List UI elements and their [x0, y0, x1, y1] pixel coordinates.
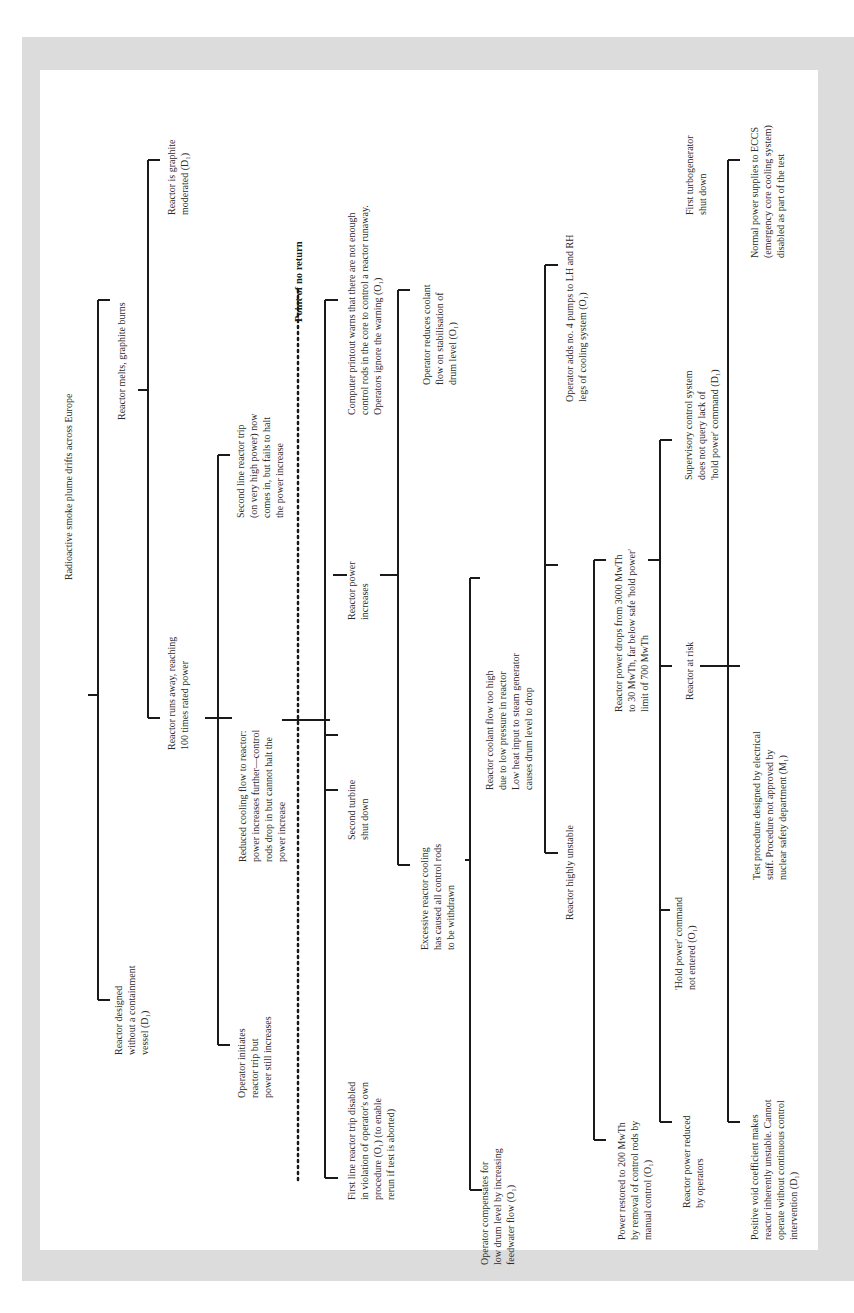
node-second-line-trip: Second line reactor trip (on very high p… — [234, 414, 286, 518]
node-first-turbogenerator: First turbogenerator shut down — [683, 135, 709, 215]
node-reactor-highly-unstable: Reactor highly unstable — [563, 825, 576, 920]
fault-tree-connectors — [0, 0, 854, 1313]
node-first-line-trip-disabled: First line reactor trip disabled in viol… — [345, 1082, 397, 1200]
node-reduced-cooling-flow: Reduced cooling flow to reactor: power i… — [236, 730, 288, 862]
top-event: Radioactive smoke plume drifts across Eu… — [62, 394, 75, 580]
point-of-no-return-label: Point of no return — [292, 241, 305, 322]
node-reactor-at-risk: Reactor at risk — [683, 642, 696, 700]
node-operator-initiates-trip: Operator initiates reactor trip but powe… — [235, 1016, 274, 1098]
node-reactor-power-increases: Reactor power increases — [345, 561, 371, 620]
node-reactor-melts: Reactor melts, graphite burns — [115, 302, 128, 420]
node-operator-adds-pumps: Operator adds no. 4 pumps to LH and RH l… — [563, 235, 589, 402]
node-second-turbine-shutdown: Second turbine shut down — [345, 780, 371, 840]
node-supervisory-control: Supervisory control system does not quer… — [682, 369, 721, 480]
node-excessive-cooling: Excessive reactor cooling has caused all… — [418, 844, 457, 950]
node-eccs-disabled: Normal power supplies to ECCS (emergency… — [748, 125, 787, 258]
node-operator-compensates: Operator compensates for low drum level … — [478, 1148, 517, 1265]
node-power-drops: Reactor power drops from 3000 MwTh to 30… — [612, 549, 651, 712]
node-positive-void-coefficient: Positive void coefficient makes reactor … — [748, 1099, 800, 1240]
node-coolant-flow-too-high: Reactor coolant flow too high due to low… — [483, 653, 535, 790]
node-hold-power-not-entered: 'Hold power' command not entered (O₁) — [672, 897, 698, 990]
node-reactor-runs-away: Reactor runs away, reaching 100 times ra… — [165, 637, 191, 750]
node-operator-reduces-coolant: Operator reduces coolant flow on stabili… — [420, 284, 459, 385]
node-no-containment: Reactor designed without a containment v… — [112, 966, 151, 1055]
node-power-restored: Power restored to 200 MwTh by removal of… — [615, 1121, 654, 1240]
node-power-reduced-by-operators: Reactor power reduced by operators — [680, 1115, 706, 1208]
node-test-procedure: Test procedure designed by electrical st… — [750, 731, 789, 880]
node-graphite-moderated: Reactor is graphite moderated (D₁) — [165, 139, 191, 215]
node-computer-printout-warning: Computer printout warns that there are n… — [345, 205, 384, 415]
